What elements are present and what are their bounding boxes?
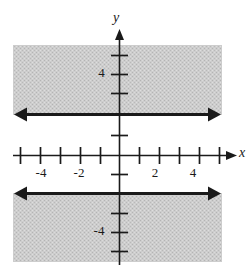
graph-canvas (0, 0, 249, 274)
x-tick-label-minus-2: -2 (68, 166, 90, 179)
x-tick-label-minus-4: -4 (30, 166, 52, 179)
y-tick-label-4: 4 (95, 66, 108, 79)
x-axis-label: x (239, 146, 245, 160)
x-axis (13, 151, 237, 160)
x-tick-label-2: 2 (148, 166, 162, 179)
coordinate-plane-figure: y x -4 -2 2 4 4 -4 (0, 0, 249, 274)
y-axis-label: y (113, 11, 119, 25)
y-tick-label-minus-4: -4 (88, 224, 110, 237)
x-tick-label-4: 4 (186, 166, 200, 179)
